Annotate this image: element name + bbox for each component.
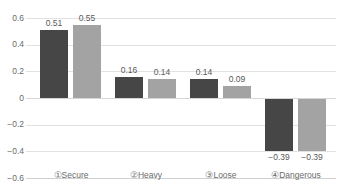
x-category-label-dangerous: ④Dangerous: [251, 170, 340, 181]
y-tick-label: 0.4: [0, 40, 24, 49]
bar-secure-a: [40, 30, 68, 98]
y-axis: 0.6 0.4 0.2 0 −0.2 −0.4 −0.6: [0, 0, 24, 192]
y-tick-label: −0.4: [0, 147, 24, 156]
bar-secure-b: [73, 25, 101, 98]
bar-chart: 0.6 0.4 0.2 0 −0.2 −0.4 −0.6 0.51 0.55 0…: [0, 0, 340, 192]
plot-area: 0.51 0.55 0.16 0.14 0.14 0.09 −0.39 −0.3…: [26, 18, 336, 178]
bar-loose-b: [223, 86, 251, 98]
bar-value-label: 0.09: [217, 74, 257, 84]
bar-loose-a: [190, 79, 218, 98]
bar-value-label: −0.39: [292, 152, 332, 162]
y-tick-label: 0.6: [0, 14, 24, 23]
bar-value-label: 0.55: [67, 13, 107, 23]
y-tick-label: −0.6: [0, 174, 24, 183]
bar-value-label: 0.14: [142, 67, 182, 77]
bar-dangerous-b: [298, 99, 326, 151]
bar-heavy-a: [115, 77, 143, 98]
bar-dangerous-a: [265, 99, 293, 151]
y-tick-label: −0.2: [0, 120, 24, 129]
y-tick-label: 0: [0, 94, 24, 103]
y-tick-label: 0.2: [0, 67, 24, 76]
bar-heavy-b: [148, 79, 176, 98]
